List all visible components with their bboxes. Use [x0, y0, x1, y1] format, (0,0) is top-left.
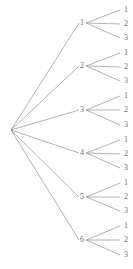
tree-diagram: 123456 123123123123123123 — [0, 0, 133, 269]
leaf-node-2-3[interactable]: 3 — [124, 77, 128, 85]
leaf-node-2-2[interactable]: 2 — [124, 63, 128, 71]
edge-root-to-node-4 — [11, 130, 79, 153]
leaf-node-1-3[interactable]: 3 — [124, 34, 128, 42]
leaf-edge-group — [86, 10, 120, 255]
edge-root-to-node-1 — [11, 23, 79, 130]
edge-node-1-to-leaf-1 — [86, 10, 120, 23]
leaf-node-5-2[interactable]: 2 — [124, 193, 128, 201]
level1-node-3[interactable]: 3 — [78, 106, 84, 114]
edge-root-to-node-2 — [11, 66, 79, 130]
leaf-node-4-2[interactable]: 2 — [124, 150, 128, 158]
level1-node-2[interactable]: 2 — [78, 62, 84, 70]
edge-node-3-to-leaf-3 — [86, 110, 120, 125]
leaf-node-6-2[interactable]: 2 — [124, 236, 128, 244]
edge-node-4-to-leaf-1 — [86, 140, 120, 153]
level1-node-6[interactable]: 6 — [78, 236, 84, 244]
edge-node-2-to-leaf-1 — [86, 53, 120, 66]
leaf-node-6-3[interactable]: 3 — [124, 251, 128, 259]
leaf-node-3-2[interactable]: 2 — [124, 106, 128, 114]
leaf-node-5-3[interactable]: 3 — [124, 207, 128, 215]
root-edge-group — [11, 23, 79, 240]
edge-node-5-to-leaf-3 — [86, 197, 120, 211]
leaf-node-4-1[interactable]: 1 — [124, 136, 128, 144]
edge-node-1-to-leaf-2 — [86, 23, 120, 24]
edge-node-2-to-leaf-3 — [86, 66, 120, 81]
edge-node-1-to-leaf-3 — [86, 23, 120, 38]
leaf-node-5-1[interactable]: 1 — [124, 179, 128, 187]
leaf-node-2-1[interactable]: 1 — [124, 49, 128, 57]
level1-node-4[interactable]: 4 — [78, 149, 84, 157]
leaf-node-6-1[interactable]: 1 — [124, 222, 128, 230]
edge-node-2-to-leaf-2 — [86, 66, 120, 67]
edge-node-6-to-leaf-1 — [86, 226, 120, 240]
edge-node-3-to-leaf-1 — [86, 96, 120, 110]
edge-node-6-to-leaf-3 — [86, 240, 120, 255]
edge-root-to-node-6 — [11, 130, 79, 240]
edge-node-4-to-leaf-2 — [86, 153, 120, 154]
level1-node-1[interactable]: 1 — [78, 19, 84, 27]
leaf-node-1-1[interactable]: 1 — [124, 6, 128, 14]
edge-root-to-node-5 — [11, 130, 79, 197]
level1-node-5[interactable]: 5 — [78, 193, 84, 201]
leaf-node-1-2[interactable]: 2 — [124, 20, 128, 28]
leaf-node-4-3[interactable]: 3 — [124, 164, 128, 172]
leaf-node-3-1[interactable]: 1 — [124, 92, 128, 100]
tree-edges-canvas — [0, 0, 133, 269]
leaf-node-3-3[interactable]: 3 — [124, 121, 128, 129]
edge-node-5-to-leaf-1 — [86, 183, 120, 197]
edge-node-4-to-leaf-3 — [86, 153, 120, 168]
